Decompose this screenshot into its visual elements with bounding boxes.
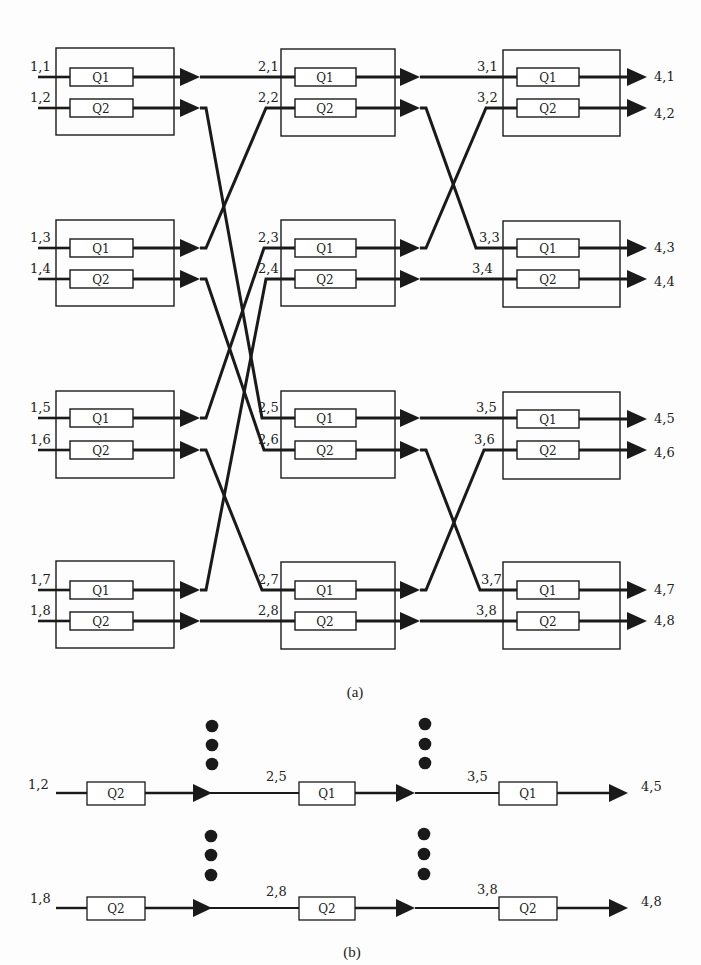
queue-label: Q2 (519, 902, 536, 916)
queue-label: Q1 (316, 412, 333, 426)
port-label: 2,5 (266, 769, 287, 784)
stage-2 (281, 49, 404, 649)
queue-label: Q1 (316, 242, 333, 256)
port-label: 3,1 (477, 59, 498, 74)
port-label: 3,6 (474, 432, 495, 447)
port-label: 3,8 (476, 603, 497, 618)
port-label: 2,2 (258, 90, 279, 105)
port-label: 1,1 (30, 59, 51, 74)
queue-label: Q1 (316, 71, 333, 85)
port-label: 1,6 (30, 432, 51, 447)
port-label: 2,3 (258, 230, 279, 245)
port-label: 3,8 (477, 882, 498, 897)
port-label: 2,5 (258, 400, 279, 415)
switch-box-3-4 (503, 562, 620, 649)
queue-label: Q1 (318, 787, 335, 801)
switch-box-1-4 (56, 561, 174, 648)
caption-a: (a) (347, 684, 364, 701)
output-label: 4,3 (654, 240, 675, 255)
figure-a-labels: 1,1 1,2 1,3 1,4 1,5 1,6 1,7 1,8 2,1 2,2 … (30, 59, 675, 701)
queue-label: Q2 (316, 444, 333, 458)
output-label: 4,8 (641, 894, 662, 909)
port-label: 1,2 (30, 90, 51, 105)
queue-label: Q1 (539, 413, 556, 427)
queue-label: Q1 (316, 584, 333, 598)
port-label: 3,5 (467, 769, 488, 784)
queue-label: Q1 (539, 242, 556, 256)
switch-box-2-4 (281, 562, 395, 649)
queue-label: Q2 (539, 102, 556, 116)
port-label: 1,8 (30, 603, 51, 618)
output-label: 4,8 (654, 613, 675, 628)
port-label: 2,7 (258, 572, 279, 587)
switch-box-1-3 (56, 391, 174, 478)
port-label: 3,2 (477, 90, 498, 105)
queue-label: Q2 (318, 902, 335, 916)
queue-label: Q1 (92, 412, 109, 426)
switch-box-3-2 (503, 221, 620, 307)
figure-a (38, 48, 647, 649)
switch-box-2-3 (281, 391, 395, 478)
queue-label: Q2 (316, 615, 333, 629)
queue-label: Q1 (539, 71, 556, 85)
switch-box-2-1 (281, 49, 395, 136)
queue-label: Q2 (107, 787, 124, 801)
queue-label: Q2 (316, 102, 333, 116)
switch-box-3-1 (503, 50, 620, 136)
queue-label: Q2 (539, 615, 556, 629)
port-label: 1,8 (30, 891, 51, 906)
links-stage2-stage3 (420, 77, 517, 621)
switch-box-3-3 (503, 392, 620, 479)
port-label: 2,6 (258, 432, 279, 447)
output-label: 4,4 (654, 274, 675, 289)
queue-label: Q1 (539, 584, 556, 598)
stage-1 (38, 48, 184, 648)
port-label: 2,1 (258, 59, 279, 74)
port-label: 3,7 (481, 572, 502, 587)
caption-b: (b) (343, 944, 361, 961)
output-label: 4,5 (641, 779, 662, 794)
output-label: 4,7 (654, 582, 675, 597)
queue-label: Q1 (519, 787, 536, 801)
queue-label: Q2 (92, 615, 109, 629)
switch-box-2-2 (281, 220, 395, 306)
port-label: 1,4 (30, 261, 51, 276)
port-label: 2,8 (266, 884, 287, 899)
queue-label: Q2 (316, 273, 333, 287)
arrowheads-b (193, 784, 628, 917)
switch-box-1-2 (56, 220, 174, 306)
output-label: 4,5 (654, 411, 675, 426)
port-label: 1,5 (30, 400, 51, 415)
banyan-network-figure: 1,1 1,2 1,3 1,4 1,5 1,6 1,7 1,8 2,1 2,2 … (0, 0, 701, 965)
queue-label: Q2 (539, 444, 556, 458)
port-label: 3,3 (479, 230, 500, 245)
output-label: 4,2 (654, 106, 675, 121)
port-label: 2,8 (258, 603, 279, 618)
output-label: 4,6 (654, 445, 675, 460)
figure-b (56, 718, 628, 920)
port-label: 1,3 (30, 230, 51, 245)
queue-label: Q1 (92, 71, 109, 85)
queue-label: Q2 (92, 102, 109, 116)
stage-3 (503, 50, 631, 649)
port-label: 3,4 (472, 261, 493, 276)
links-stage1-stage2 (200, 77, 295, 621)
queue-label: Q2 (92, 273, 109, 287)
queue-label: Q2 (539, 273, 556, 287)
switch-box-1-1 (56, 48, 174, 135)
queue-label: Q2 (92, 444, 109, 458)
queue-label: Q1 (92, 584, 109, 598)
port-label: 1,7 (30, 572, 51, 587)
queue-label: Q1 (92, 242, 109, 256)
port-label: 2,4 (258, 261, 279, 276)
port-label: 3,5 (476, 400, 497, 415)
output-label: 4,1 (654, 69, 675, 84)
queue-label: Q2 (107, 902, 124, 916)
port-label: 1,2 (28, 777, 49, 792)
